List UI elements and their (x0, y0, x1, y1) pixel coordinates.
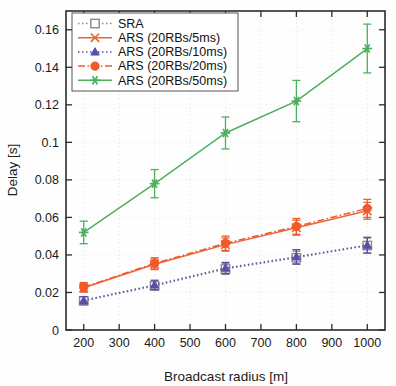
legend-label: ARS (20RBs/10ms) (118, 45, 227, 59)
x-tick-label: 400 (144, 336, 165, 350)
delay-vs-broadcast-radius-chart: 2003004005006007008009001000 00.020.040.… (0, 0, 396, 386)
x-tick-label: 600 (215, 336, 236, 350)
x-axis-tick-labels: 2003004005006007008009001000 (73, 336, 381, 350)
x-tick-label: 800 (286, 336, 307, 350)
y-tick-label: 0.14 (35, 61, 59, 75)
legend-label: ARS (20RBs/5ms) (118, 31, 220, 45)
legend-marker-square-icon (91, 19, 99, 27)
legend-label: SRA (118, 17, 144, 31)
x-tick-label: 700 (251, 336, 272, 350)
x-tick-label: 900 (321, 336, 342, 350)
x-tick-label: 500 (180, 336, 201, 350)
chart-figure: 2003004005006007008009001000 00.020.040.… (0, 0, 396, 386)
x-tick-label: 300 (109, 336, 130, 350)
legend-label: ARS (20RBs/20ms) (118, 59, 227, 73)
y-tick-label: 0.12 (35, 98, 59, 112)
series-ars-20rbs-20ms (80, 199, 372, 292)
y-tick-label: 0.02 (35, 286, 59, 300)
legend-marker-circle-icon (91, 62, 99, 70)
y-tick-label: 0.08 (35, 173, 59, 187)
y-tick-label: 0.1 (42, 136, 59, 150)
legend-label: ARS (20RBs/50ms) (118, 74, 227, 88)
y-tick-label: 0.04 (35, 248, 59, 262)
chart-legend: SRAARS (20RBs/5ms)ARS (20RBs/10ms)ARS (2… (72, 13, 238, 91)
y-axis-tick-labels: 00.020.040.060.080.10.120.140.16 (35, 23, 59, 337)
y-tick-label: 0.16 (35, 23, 59, 37)
y-tick-label: 0.06 (35, 211, 59, 225)
y-tick-label: 0 (52, 324, 59, 338)
x-tick-label: 1000 (353, 336, 381, 350)
x-tick-label: 200 (73, 336, 94, 350)
y-axis-title: Delay [s] (5, 144, 20, 197)
x-axis-title: Broadcast radius [m] (164, 369, 288, 384)
